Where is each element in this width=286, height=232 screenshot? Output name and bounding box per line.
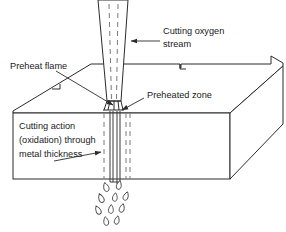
slag-droplet: [103, 216, 109, 225]
metal-plate: [13, 56, 283, 179]
label-preheated-zone: Preheated zone: [147, 90, 212, 100]
slag-droplet: [122, 191, 130, 201]
slag-droplet: [97, 193, 105, 203]
slag-droplet: [112, 192, 118, 201]
slag-droplet: [114, 215, 121, 224]
slag-droplet: [94, 205, 102, 215]
slag-droplet: [102, 182, 110, 192]
slag-droplet: [108, 204, 113, 213]
label-cutting-action-line2: (oxidation) through: [19, 135, 96, 145]
oxyfuel-cutting-diagram: Cutting oxygen stream Preheat flame Preh…: [0, 0, 286, 232]
label-cutting-oxygen-stream-line1: Cutting oxygen: [163, 26, 224, 36]
label-cutting-oxygen-stream-line2: stream: [163, 39, 191, 49]
diagram-canvas: Cutting oxygen stream Preheat flame Preh…: [0, 0, 286, 232]
label-preheat-flame: Preheat flame: [10, 61, 67, 71]
label-cutting-action-line3: metal thickness: [19, 149, 83, 159]
slag-droplets: [94, 180, 130, 226]
label-cutting-action-line1: Cutting action: [19, 121, 75, 131]
slag-droplet: [118, 203, 125, 213]
